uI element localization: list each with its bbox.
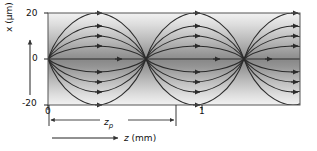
x-axis-ticks: [48, 105, 202, 110]
period-dimension-arrow: [49, 105, 176, 126]
y-axis-ticks: [44, 13, 48, 105]
figure-container: x (µm) 20 0 -20 0 1 L M P Q zp z (mm): [0, 0, 317, 151]
plot-svg: [0, 0, 317, 151]
